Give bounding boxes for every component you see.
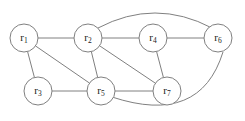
edge-r2-r7: [100, 46, 156, 83]
edges-layer: [28, 13, 223, 105]
node-r7: r7: [153, 77, 181, 105]
node-r2: r2: [74, 24, 102, 52]
nodes-layer: r1r2r3r4r5r6r7: [10, 24, 232, 105]
graph-canvas: r1r2r3r4r5r6r7: [0, 0, 245, 121]
edge-r1-r5: [36, 46, 90, 83]
node-r5: r5: [87, 77, 115, 105]
node-r1: r1: [10, 24, 38, 52]
edge-r2-r5: [91, 52, 97, 78]
node-r6: r6: [204, 24, 232, 52]
node-r4: r4: [139, 24, 167, 52]
edge-r4-r7: [157, 52, 164, 78]
graph-diagram: r1r2r3r4r5r6r7: [0, 0, 245, 121]
node-r3: r3: [24, 77, 52, 105]
edge-r1-r3: [28, 52, 35, 78]
